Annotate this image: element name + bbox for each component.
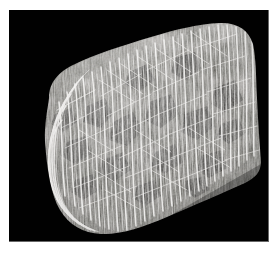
specimen-render <box>9 10 269 242</box>
image-panel <box>9 10 269 242</box>
bone-specimen <box>9 10 269 242</box>
specimen-body <box>9 10 269 242</box>
figure-page <box>0 0 279 253</box>
